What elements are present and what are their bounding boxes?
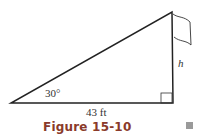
flag-icon: [173, 14, 191, 45]
figure-caption: Figure 15-10: [43, 120, 131, 134]
base-length-label: 43 ft: [86, 107, 106, 118]
angle-label: 30°: [45, 88, 60, 99]
height-label: h: [178, 58, 184, 69]
end-marker-square: [186, 122, 193, 129]
right-triangle: [11, 12, 173, 103]
right-angle-marker: [161, 93, 172, 103]
